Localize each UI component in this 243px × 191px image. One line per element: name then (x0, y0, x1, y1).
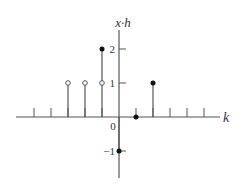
filled-marker (151, 81, 156, 86)
y-tick-labels: 21−1 (103, 43, 115, 157)
markers (66, 47, 156, 154)
y-tick-label: 1 (110, 77, 116, 89)
y-axis-label: x·h (114, 15, 131, 30)
open-marker (66, 81, 71, 86)
axes (16, 30, 220, 178)
y-tick-label: 2 (110, 43, 116, 55)
x-axis-label: k (223, 110, 230, 125)
filled-marker (100, 47, 105, 52)
stem-plot: x·h k 0 21−1 (0, 0, 243, 191)
origin-label: 0 (110, 120, 116, 132)
y-tick-label: −1 (103, 145, 115, 157)
filled-marker (117, 149, 122, 154)
stems (68, 49, 153, 151)
open-marker (83, 81, 88, 86)
filled-marker (134, 115, 139, 120)
open-marker (100, 81, 105, 86)
